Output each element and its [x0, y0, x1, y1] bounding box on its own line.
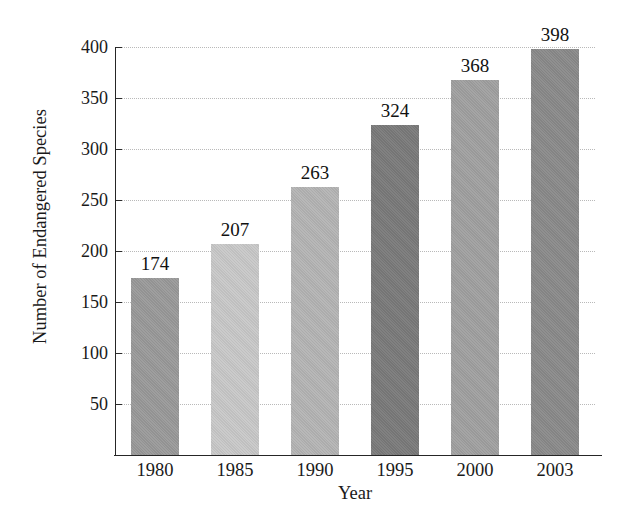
- y-axis-tick-label: 150: [81, 292, 108, 313]
- bar-value-label: 368: [461, 55, 490, 77]
- bar-rect[interactable]: [451, 80, 499, 455]
- chart-title: [0, 0, 617, 4]
- bar-rect[interactable]: [371, 125, 419, 455]
- x-axis-tick-label: 1995: [377, 460, 414, 481]
- bar-rect[interactable]: [131, 278, 179, 455]
- bar-chart-figure: Number of Endangered Species 50100150200…: [0, 0, 617, 509]
- y-axis-tick-label: 50: [90, 394, 108, 415]
- y-axis-tick-label: 200: [81, 241, 108, 262]
- y-axis-tick-label: 250: [81, 190, 108, 211]
- x-axis-tick-label: 2003: [537, 460, 574, 481]
- bar-value-label: 398: [541, 24, 570, 46]
- bar-rect[interactable]: [291, 187, 339, 455]
- x-axis-tick-label: 2000: [457, 460, 494, 481]
- bar-value-label: 263: [301, 162, 330, 184]
- x-axis-tick-label: 1980: [137, 460, 174, 481]
- bar-group[interactable]: 2631990: [291, 47, 339, 455]
- bars-layer: 1741980207198526319903241995368200039820…: [115, 47, 595, 455]
- bar-group[interactable]: 3682000: [451, 47, 499, 455]
- x-axis-title: Year: [115, 483, 595, 504]
- bar-rect[interactable]: [211, 244, 259, 455]
- bar-group[interactable]: 1741980: [131, 47, 179, 455]
- y-axis-tick-label: 100: [81, 343, 108, 364]
- x-axis-tick-label: 1985: [217, 460, 254, 481]
- bar-rect[interactable]: [531, 49, 579, 455]
- y-axis-tick-label: 400: [81, 37, 108, 58]
- y-axis-title: Number of Endangered Species: [30, 37, 51, 417]
- x-axis-tick-label: 1990: [297, 460, 334, 481]
- bar-group[interactable]: 2071985: [211, 47, 259, 455]
- bar-group[interactable]: 3982003: [531, 47, 579, 455]
- bar-group[interactable]: 3241995: [371, 47, 419, 455]
- bar-value-label: 207: [221, 219, 250, 241]
- y-axis-tick-label: 300: [81, 139, 108, 160]
- bar-value-label: 324: [381, 100, 410, 122]
- bar-value-label: 174: [141, 253, 170, 275]
- x-axis-line: [114, 455, 602, 456]
- y-axis-tick-label: 350: [81, 88, 108, 109]
